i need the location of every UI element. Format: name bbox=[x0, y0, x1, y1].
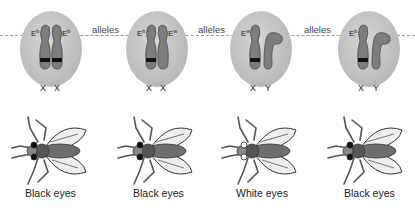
fruit-fly-icon bbox=[324, 112, 414, 187]
fruit-fly-icon bbox=[114, 112, 204, 187]
chromosome-pair-xx-icon bbox=[20, 11, 82, 87]
fly-eye-top bbox=[137, 142, 143, 148]
phenotype-label: Black eyes bbox=[25, 187, 76, 199]
panel-female-heterozygous: Eb Ew X X Black eyes bbox=[104, 0, 208, 213]
chromosome-type-left: X bbox=[40, 83, 46, 93]
chromosome-type-right: Y bbox=[373, 83, 379, 93]
fruit-fly-icon bbox=[8, 112, 98, 187]
chromosome-type-left: X bbox=[146, 83, 152, 93]
fly-eye-top bbox=[31, 142, 37, 148]
cell-nucleus-oval: Eb X Y bbox=[338, 11, 400, 87]
fly-eye-top bbox=[241, 142, 247, 148]
phenotype-label: Black eyes bbox=[344, 187, 395, 199]
chromosome-pair-xx-icon bbox=[126, 11, 188, 87]
cell-nucleus-oval: Ew X Y bbox=[230, 11, 292, 87]
panel-male-white: Ew X Y White eyes bbox=[208, 0, 312, 213]
fly-eye-bottom bbox=[31, 154, 37, 160]
chromosome-type-right: X bbox=[160, 83, 166, 93]
chromosome-type-right: Y bbox=[265, 83, 271, 93]
fruit-fly-icon bbox=[218, 112, 308, 187]
chromosome-type-right: X bbox=[54, 83, 60, 93]
phenotype-label: White eyes bbox=[236, 187, 288, 199]
allele-label-right: Ew bbox=[168, 27, 177, 38]
chromosome-type-left: X bbox=[358, 83, 364, 93]
allele-label-left: Eb bbox=[31, 27, 39, 38]
fly-eye-top bbox=[347, 142, 353, 148]
panel-female-homozygous: Eb Eb X X Black eyes bbox=[0, 0, 104, 213]
panel-male-black: Eb X Y Black eyes bbox=[312, 0, 415, 213]
allele-label-left: Eb bbox=[137, 27, 145, 38]
allele-label-left: Eb bbox=[349, 27, 357, 38]
allele-label-left: Ew bbox=[241, 27, 250, 38]
chromosome-pair-xy-icon bbox=[338, 11, 400, 87]
cell-nucleus-oval: Eb Ew X X bbox=[126, 11, 188, 87]
chromosome-pair-xy-icon bbox=[230, 11, 292, 87]
fly-eye-bottom bbox=[241, 154, 247, 160]
fly-eye-bottom bbox=[137, 154, 143, 160]
cell-nucleus-oval: Eb Eb X X bbox=[20, 11, 82, 87]
allele-label-right: Eb bbox=[62, 27, 70, 38]
phenotype-label: Black eyes bbox=[133, 187, 184, 199]
fly-eye-bottom bbox=[347, 154, 353, 160]
chromosome-type-left: X bbox=[250, 83, 256, 93]
